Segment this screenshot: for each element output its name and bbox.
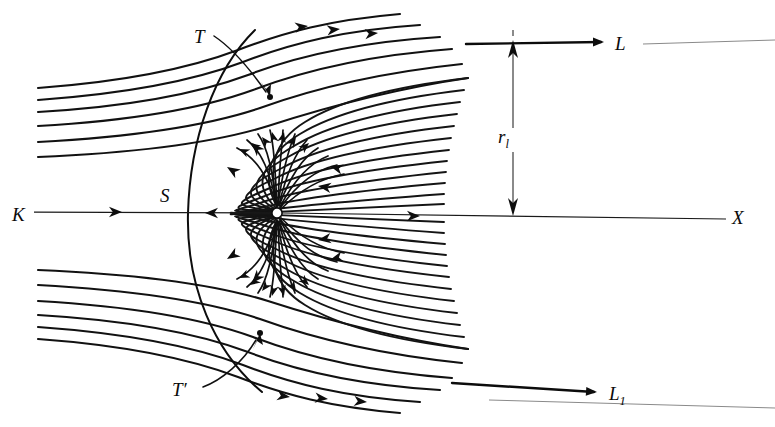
- asymptote-lower-line: [452, 383, 594, 392]
- arrow-fan-l-3: [259, 280, 272, 294]
- upper-focusing-streamlines: [231, 78, 468, 214]
- label-radius: rl: [498, 126, 509, 151]
- label-X: X: [731, 207, 745, 228]
- streamline-ll-2: [38, 327, 420, 402]
- lower-asymptote: [452, 383, 597, 396]
- figure-root: K S T T′ L L1 X rl: [0, 0, 775, 427]
- arrow-fan-u-8: [224, 163, 241, 179]
- faint-guide-lower: [489, 400, 775, 408]
- upper-asymptote: [466, 38, 604, 47]
- node-dot-T: [267, 94, 273, 100]
- label-L1-sub: 1: [620, 394, 626, 408]
- radius-dimension: [508, 30, 518, 216]
- arrow-fan-l-8: [224, 248, 241, 264]
- focus-point: [272, 208, 282, 218]
- streamline-diagram-svg: K S T T′ L L1 X rl: [0, 0, 775, 427]
- asymptote-upper-line: [466, 42, 601, 44]
- fan-u-1: [237, 148, 277, 206]
- label-L1-base: L: [608, 383, 620, 404]
- faint-guide-upper: [643, 40, 775, 44]
- streamline-ll-1: [38, 339, 400, 413]
- asymptote-upper-arrow: [593, 38, 604, 47]
- label-L: L: [614, 33, 626, 54]
- streamline-ll-3: [38, 315, 440, 390]
- label-S: S: [160, 185, 170, 206]
- asymptote-lower-arrow: [586, 387, 598, 396]
- streamline-lturn-2: [269, 220, 464, 337]
- streamline-uturn-2: [269, 90, 464, 207]
- upper-left-streamlines: [38, 14, 468, 157]
- lower-left-streamlines: [38, 270, 468, 413]
- fan-l-1: [237, 221, 277, 279]
- axis-arrow-right-2: [407, 211, 420, 221]
- label-T: T: [194, 26, 206, 47]
- arrow-top-2: [327, 24, 341, 36]
- lower-focusing-streamlines: [231, 213, 468, 349]
- node-dot-Tprime: [257, 330, 263, 336]
- arrow-fan-u-3: [259, 134, 272, 148]
- label-K: K: [11, 204, 26, 225]
- label-L1: L1: [608, 383, 626, 408]
- label-radius-sub: l: [505, 137, 509, 151]
- streamline-ul-1: [38, 14, 400, 88]
- label-T-prime: T′: [172, 379, 188, 400]
